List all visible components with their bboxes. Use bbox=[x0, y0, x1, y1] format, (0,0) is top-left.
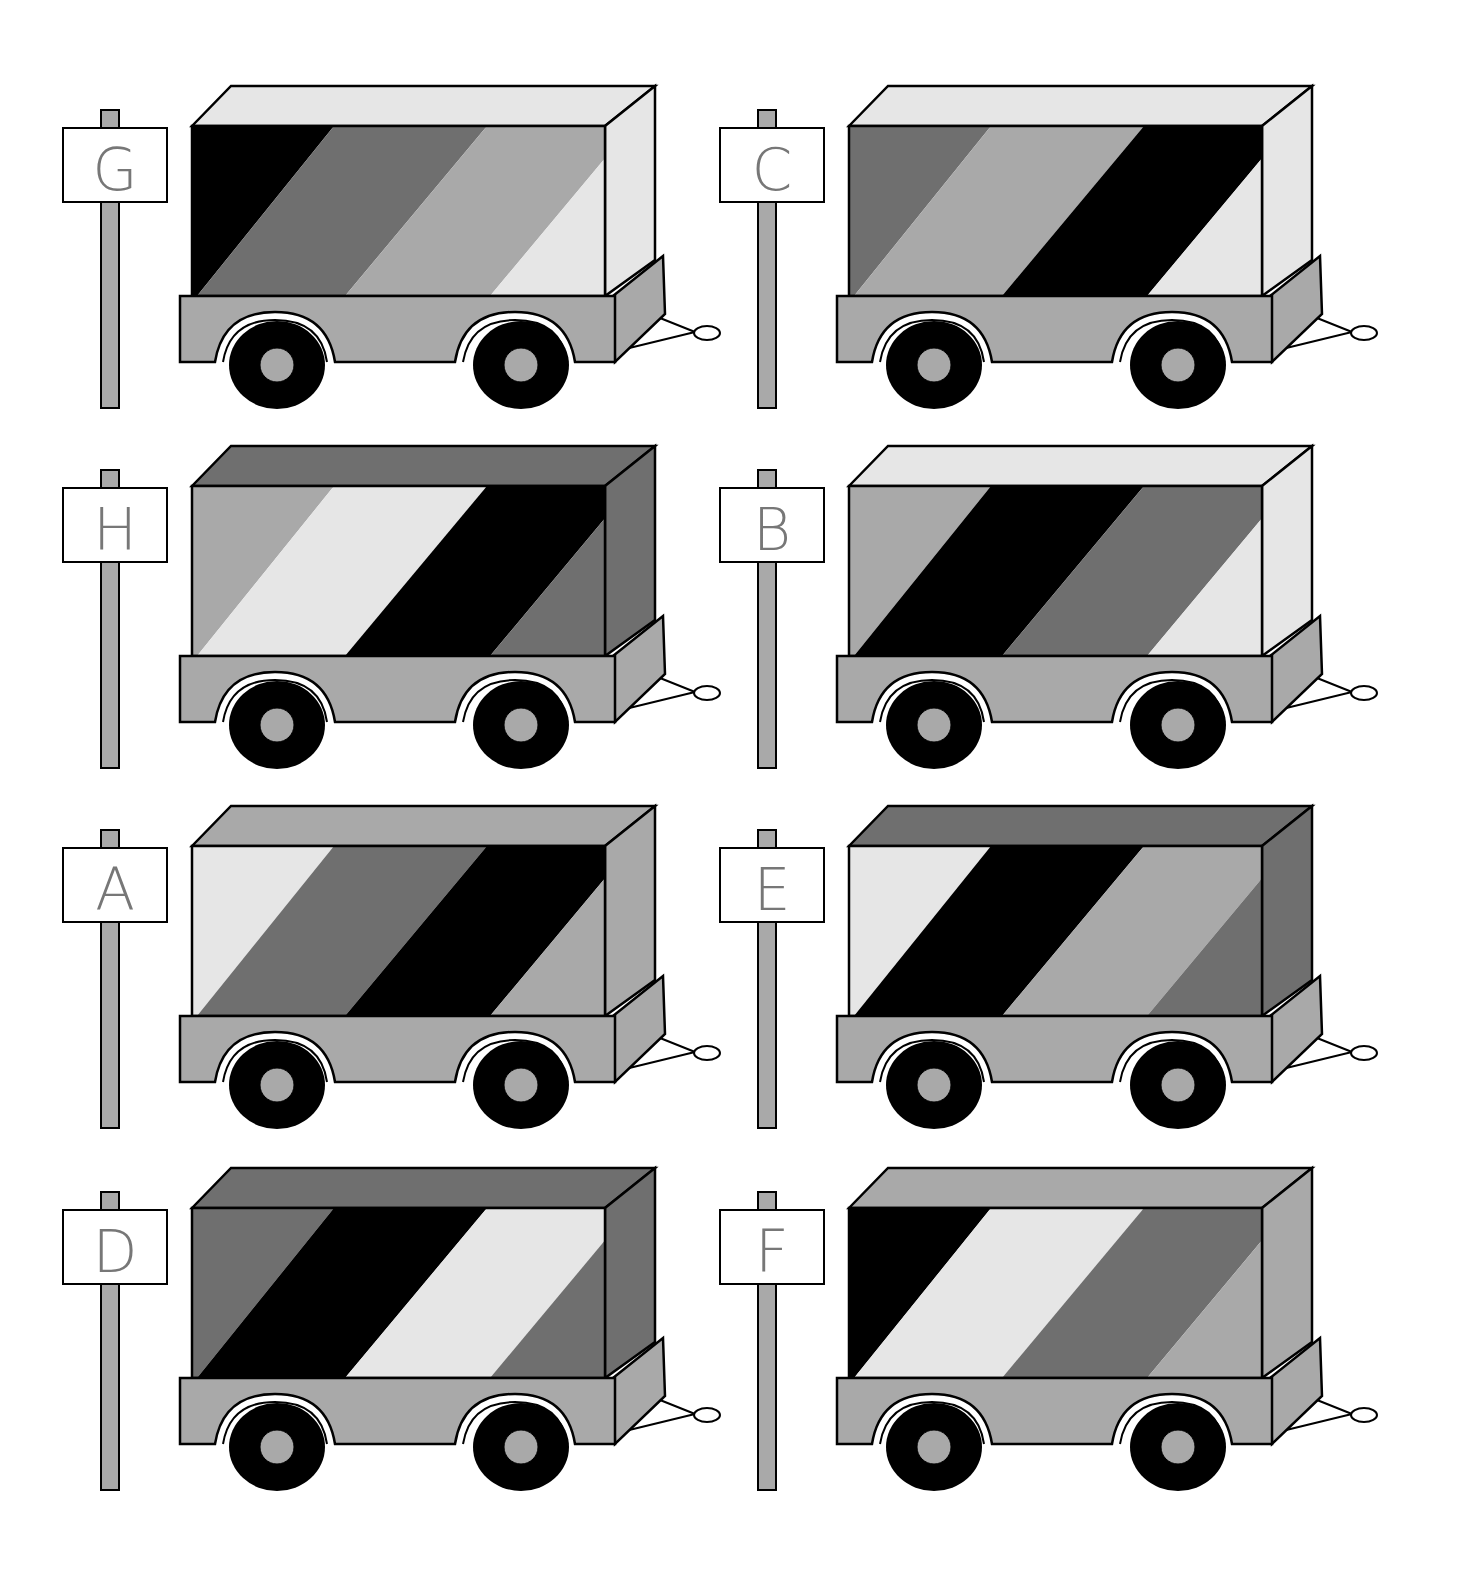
wheel bbox=[229, 321, 325, 409]
trailer-e: E bbox=[712, 800, 1412, 1140]
sign-label: C bbox=[752, 136, 793, 204]
wheel bbox=[473, 1041, 569, 1129]
trailer-illustration: E bbox=[712, 800, 1412, 1140]
trailer-illustration: B bbox=[712, 440, 1412, 780]
sign-post: G bbox=[63, 110, 167, 408]
sign-post: B bbox=[720, 470, 824, 768]
sign-post: E bbox=[720, 830, 824, 1128]
sign-post: H bbox=[63, 470, 167, 768]
wheel bbox=[1130, 681, 1226, 769]
wheel bbox=[229, 1403, 325, 1491]
trailer-h: H bbox=[55, 440, 755, 780]
trailer-g: G bbox=[55, 80, 755, 420]
trailer-illustration: C bbox=[712, 80, 1412, 420]
sign-label: E bbox=[754, 856, 791, 924]
trailer-illustration: D bbox=[55, 1162, 755, 1502]
trailer-a: A bbox=[55, 800, 755, 1140]
trailer-d: D bbox=[55, 1162, 755, 1502]
sign-label: A bbox=[95, 856, 135, 924]
wheel bbox=[886, 1041, 982, 1129]
wheel bbox=[886, 1403, 982, 1491]
trailer-b: B bbox=[712, 440, 1412, 780]
trailer-c: C bbox=[712, 80, 1412, 420]
wheel bbox=[1130, 1403, 1226, 1491]
trailer-illustration: A bbox=[55, 800, 755, 1140]
sign-label: G bbox=[93, 136, 138, 204]
trailer-illustration: H bbox=[55, 440, 755, 780]
sign-label: F bbox=[755, 1218, 788, 1286]
wheel bbox=[473, 1403, 569, 1491]
sign-post: A bbox=[63, 830, 167, 1128]
wheel bbox=[229, 1041, 325, 1129]
wheel bbox=[473, 321, 569, 409]
sign-label: D bbox=[93, 1218, 138, 1286]
sign-post: D bbox=[63, 1192, 167, 1490]
sign-label: H bbox=[93, 496, 137, 564]
wheel bbox=[1130, 321, 1226, 409]
wheel bbox=[473, 681, 569, 769]
wheel bbox=[229, 681, 325, 769]
trailer-illustration: G bbox=[55, 80, 755, 420]
sign-label: B bbox=[753, 496, 791, 564]
wheel bbox=[886, 321, 982, 409]
trailer-f: F bbox=[712, 1162, 1412, 1502]
sign-post: C bbox=[720, 110, 824, 408]
sign-post: F bbox=[720, 1192, 824, 1490]
wheel bbox=[886, 681, 982, 769]
trailer-illustration: F bbox=[712, 1162, 1412, 1502]
wheel bbox=[1130, 1041, 1226, 1129]
